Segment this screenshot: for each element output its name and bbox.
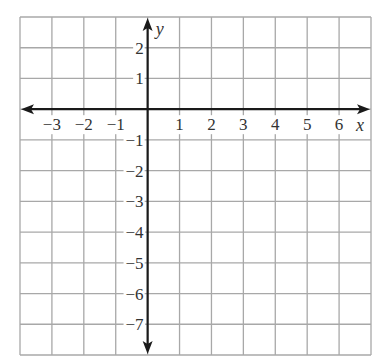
y-tick-label: 1 xyxy=(135,69,144,88)
axes xyxy=(21,18,370,354)
y-tick-label: −4 xyxy=(126,223,145,242)
x-tick-label: −1 xyxy=(107,115,125,134)
x-tick-label: 4 xyxy=(271,115,280,134)
x-tick-label: −2 xyxy=(75,115,93,134)
x-tick-label: 3 xyxy=(239,115,248,134)
x-tick-label: 6 xyxy=(335,115,344,134)
y-tick-label: −1 xyxy=(126,131,144,150)
x-axis-label: x xyxy=(355,115,364,135)
grid-lines xyxy=(20,17,371,355)
tick-labels: −3−2−112345621−1−2−3−4−5−6−7xy xyxy=(42,19,364,334)
coordinate-plane: −3−2−112345621−1−2−3−4−5−6−7xy xyxy=(0,0,377,363)
y-tick-label: −3 xyxy=(126,192,144,211)
y-tick-label: −5 xyxy=(126,254,144,273)
x-tick-label: −3 xyxy=(43,115,61,134)
y-tick-label: −7 xyxy=(126,315,145,334)
y-axis-label: y xyxy=(154,19,164,39)
y-tick-label: −2 xyxy=(126,162,144,181)
y-tick-label: 2 xyxy=(135,39,144,58)
x-tick-label: 5 xyxy=(303,115,312,134)
x-tick-label: 2 xyxy=(207,115,216,134)
y-tick-label: −6 xyxy=(126,285,144,304)
x-tick-label: 1 xyxy=(175,115,184,134)
